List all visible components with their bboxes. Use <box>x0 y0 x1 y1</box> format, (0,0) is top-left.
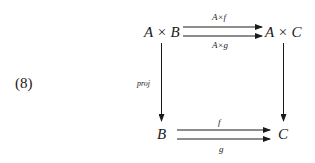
label-left-vertical: proj <box>137 80 150 88</box>
label-bottom-lower: g <box>219 145 224 154</box>
equation-number: (8) <box>15 76 33 91</box>
node-bottom-right: C <box>278 127 288 142</box>
commutative-diagram: (8) A × B A × C B C A×f A×g proj f g <box>0 0 315 163</box>
node-bottom-left: B <box>157 127 166 142</box>
label-top-upper: A×f <box>212 13 226 22</box>
label-bottom-upper: f <box>218 118 221 127</box>
node-top-left: A × B <box>144 25 180 40</box>
node-top-right: A × C <box>265 25 302 40</box>
label-top-lower: A×g <box>212 41 228 50</box>
